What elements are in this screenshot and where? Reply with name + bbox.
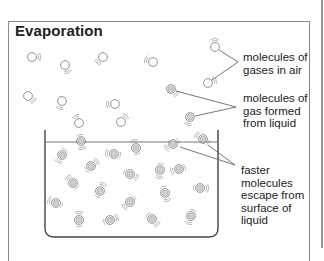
- molecule-icon: [95, 53, 108, 66]
- leader-lines: [176, 50, 238, 165]
- molecule-icon: [47, 196, 62, 208]
- molecule-icon: [146, 213, 161, 228]
- molecule-icon: [155, 163, 164, 178]
- label-gases-in-air: molecules of gases in air: [243, 51, 308, 76]
- molecule-icon: [194, 131, 209, 145]
- molecule-icon: [85, 158, 100, 172]
- molecule-icon: [122, 196, 137, 210]
- label-faster-molecules: faster molecules escape from surface of …: [241, 164, 304, 227]
- molecule-icon: [211, 38, 220, 51]
- molecule-icon: [164, 138, 179, 151]
- molecule-icon: [56, 97, 67, 110]
- molecule-icon: [167, 85, 180, 97]
- molecule-icon: [75, 211, 84, 226]
- molecule-icon: [95, 182, 107, 197]
- molecule-icon: [24, 92, 37, 105]
- molecule-icon: [103, 213, 118, 225]
- molecules: [24, 38, 220, 227]
- molecule-icon: [28, 53, 41, 62]
- molecule-icon: [160, 186, 171, 201]
- molecule-icon: [106, 100, 119, 109]
- molecule-icon: [105, 149, 120, 158]
- molecule-icon: [61, 61, 72, 74]
- molecule-icon: [170, 164, 185, 175]
- molecule-icon: [77, 134, 87, 149]
- molecule-icon: [123, 168, 138, 181]
- molecule-icon: [55, 148, 68, 163]
- molecule-icon: [144, 55, 157, 66]
- molecule-icon: [117, 114, 129, 127]
- molecule-icon: [65, 175, 79, 190]
- molecule-icon: [72, 114, 84, 127]
- molecule-icon: [184, 209, 196, 224]
- molecule-icon: [184, 113, 195, 126]
- molecule-icon: [193, 184, 208, 193]
- molecule-icon: [204, 76, 217, 87]
- label-gas-from-liquid: molecules of gas formed from liquid: [243, 92, 308, 130]
